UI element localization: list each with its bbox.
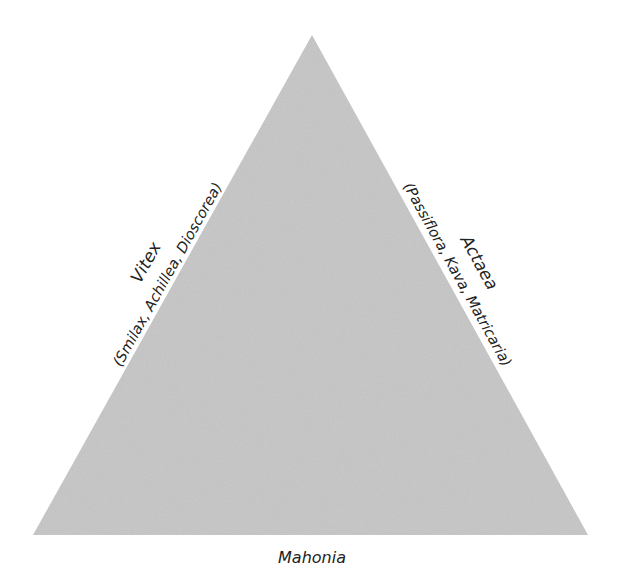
bottom-side-title: Mahonia [278,548,346,567]
triangle-diagram: Vitex (Smilax, Achillea, Dioscorea) Acta… [0,0,628,573]
triangle-shape [33,35,588,535]
